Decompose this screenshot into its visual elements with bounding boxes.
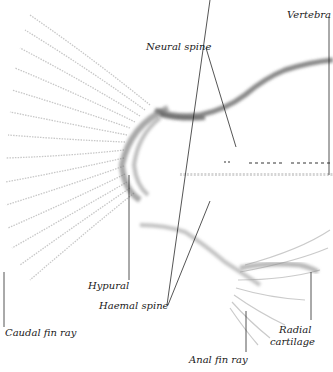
label-radial-cartilage-line2: cartilage [270, 336, 315, 347]
notochord-ghost [180, 174, 333, 175]
anal-fin-base [240, 264, 318, 272]
caudal-skeleton-diagram: Vertebra Neural spine Hypural Haemal spi… [0, 0, 333, 372]
label-haemal-spine: Haemal spine [99, 300, 169, 311]
label-vertebra: Vertebra [287, 9, 331, 20]
specimen-illustration [0, 0, 333, 372]
label-radial-cartilage-line1: Radial [279, 324, 311, 335]
label-neural-spine: Neural spine [146, 41, 211, 52]
vertebral-column [224, 161, 330, 164]
label-hypural: Hypural [88, 280, 129, 291]
leader-neural-spine [206, 48, 236, 147]
ventral-outline [140, 225, 260, 285]
label-caudal-fin-ray: Caudal fin ray [5, 327, 76, 338]
label-anal-fin-ray: Anal fin ray [189, 354, 248, 365]
dorsal-outline [155, 60, 333, 119]
